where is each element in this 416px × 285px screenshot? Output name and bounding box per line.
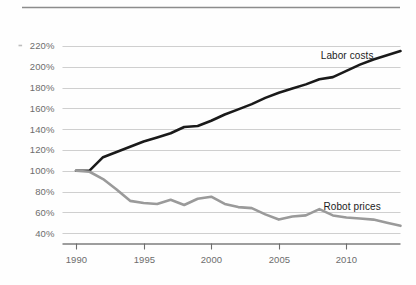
y-tick-label-200: 200% [30, 61, 55, 72]
y-tick-label-160: 160% [30, 103, 55, 114]
y-tick-label-40: 40% [35, 228, 55, 239]
y-tick-label-220: 220% [30, 40, 55, 51]
top-tick-marker-icon [19, 45, 23, 47]
line-chart: 40%60%80%100%120%140%160%180%200%220%199… [0, 0, 416, 285]
y-tick-label-100: 100% [30, 165, 55, 176]
x-axis-labels: 19901995200020052010 [66, 244, 358, 265]
x-tick-label-2010: 2010 [336, 254, 358, 265]
x-tick-label-1990: 1990 [66, 254, 88, 265]
series-group [76, 51, 400, 226]
series-label-robot-prices: Robot prices [323, 201, 380, 212]
x-tick-label-2005: 2005 [269, 254, 291, 265]
series-label-labor-costs: Labor costs [321, 50, 374, 61]
y-tick-label-60: 60% [35, 207, 55, 218]
series-line-robot-prices [76, 171, 400, 226]
x-tick-label-2000: 2000 [201, 254, 223, 265]
y-tick-label-120: 120% [30, 144, 55, 155]
y-tick-label-140: 140% [30, 124, 55, 135]
y-tick-label-180: 180% [30, 82, 55, 93]
x-tick-label-1995: 1995 [134, 254, 156, 265]
series-annotations: Labor costsRobot prices [321, 50, 381, 212]
y-tick-label-80: 80% [35, 186, 55, 197]
chart-container: 40%60%80%100%120%140%160%180%200%220%199… [0, 0, 416, 285]
y-axis-labels: 40%60%80%100%120%140%160%180%200%220% [30, 40, 55, 238]
series-line-labor-costs [76, 51, 400, 171]
